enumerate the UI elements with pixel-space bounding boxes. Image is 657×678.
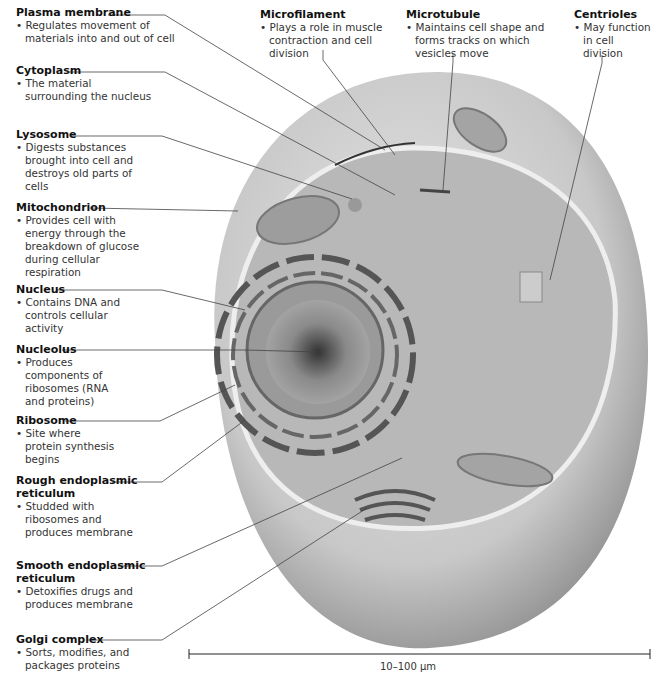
scale-bar-label: 10–100 μm (380, 661, 436, 672)
label-nucleus: NucleusContains DNA and controls cellula… (16, 283, 136, 335)
centriole-shape (520, 272, 542, 302)
label-ribosome: RibosomeSite where protein synthesis beg… (16, 414, 116, 466)
label-nucleolus: NucleolusProduces components of ribosome… (16, 343, 121, 408)
label-lysosome: LysosomeDigests substances brought into … (16, 128, 156, 193)
label-centrioles: CentriolesMay function in cell division (574, 8, 654, 60)
label-plasma-membrane: Plasma membraneRegulates movement of mat… (16, 6, 191, 45)
label-microtubule: MicrotubuleMaintains cell shape and form… (406, 8, 566, 60)
label-golgi: Golgi complexSorts, modifies, and packag… (16, 633, 136, 672)
label-smooth-er: Smooth endoplasmic reticulumDetoxifies d… (16, 559, 166, 611)
label-microfilament: MicrofilamentPlays a role in muscle cont… (260, 8, 400, 60)
label-mitochondrion: MitochondrionProvides cell with energy t… (16, 201, 141, 279)
label-cytoplasm: CytoplasmThe material surrounding the nu… (16, 64, 156, 103)
scale-bar (189, 649, 650, 659)
label-rough-er: Rough endoplasmic reticulumStudded with … (16, 474, 141, 539)
